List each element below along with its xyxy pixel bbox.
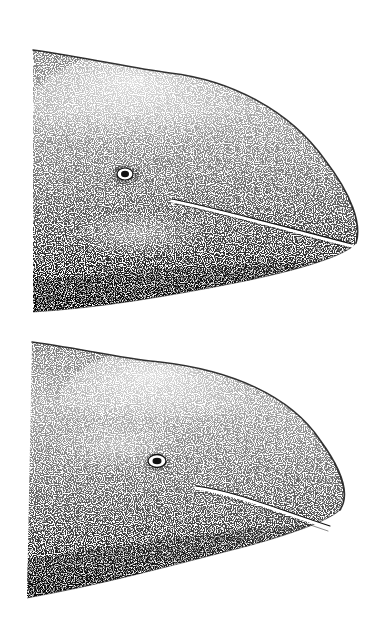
eye-icon	[144, 453, 170, 471]
whale-head-upper	[20, 40, 370, 320]
whale-head-lower	[20, 335, 360, 610]
eye-icon	[111, 165, 139, 185]
illustration: whale head (upper) whale head (lower)	[0, 0, 380, 628]
